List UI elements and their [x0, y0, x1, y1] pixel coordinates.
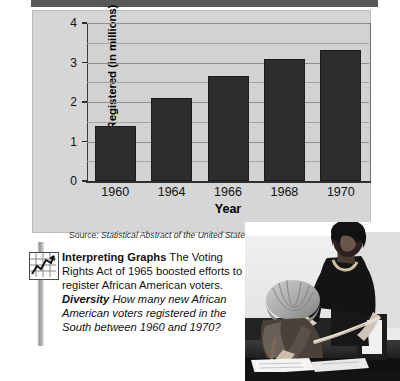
- source-title: Statistical Abstract of the United State…: [101, 230, 249, 240]
- x-axis-label-1960: 1960: [85, 185, 145, 199]
- line-chart-icon: [29, 252, 59, 280]
- y-axis-label: 1: [51, 137, 77, 147]
- y-axis-label: 0: [51, 176, 77, 186]
- caption-text: Interpreting Graphs The Voting Rights Ac…: [62, 250, 245, 335]
- gridline-major: [87, 23, 369, 24]
- y-axis-tick: [82, 101, 87, 103]
- caption-heading: Interpreting Graphs: [62, 251, 166, 263]
- x-axis-label-1970: 1970: [311, 185, 371, 199]
- y-axis-label: 4: [51, 18, 77, 28]
- caption-emphasis: Diversity: [62, 293, 109, 305]
- top-rule-divider: [31, 0, 378, 7]
- y-axis-tick: [82, 22, 87, 24]
- x-axis-line: [86, 181, 371, 183]
- source-prefix: Source:: [69, 230, 99, 240]
- bar-1970: [320, 50, 361, 181]
- bar-1960: [95, 126, 136, 181]
- photo-voter-registration: [245, 222, 400, 381]
- bar-1968: [264, 59, 305, 181]
- x-axis-label-1968: 1968: [254, 185, 314, 199]
- gridline-minor: [87, 43, 369, 44]
- y-axis-tick: [82, 62, 87, 64]
- y-axis-tick: [82, 180, 87, 182]
- bar-1964: [151, 98, 192, 181]
- chart-panel: Number Registered (in millions) 01234196…: [32, 10, 371, 233]
- y-axis-tick: [82, 141, 87, 143]
- bar-1966: [208, 76, 249, 181]
- y-axis-label: 2: [51, 97, 77, 107]
- x-axis-label-1966: 1966: [198, 185, 258, 199]
- x-axis-title: Year: [87, 202, 369, 216]
- figure-root: Number Registered (in millions) 01234196…: [0, 0, 400, 381]
- source-line: Source: Statistical Abstract of the Unit…: [69, 230, 249, 240]
- x-axis-label-1964: 1964: [142, 185, 202, 199]
- y-axis-label: 3: [51, 58, 77, 68]
